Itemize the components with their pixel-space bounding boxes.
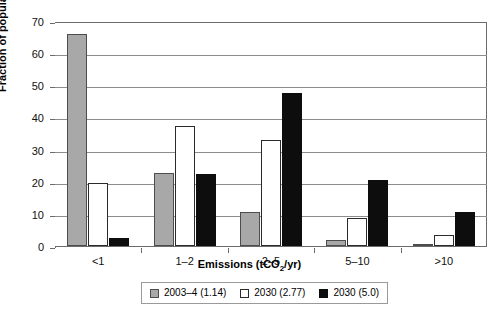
gridline [55, 119, 487, 120]
x-axis-tick [401, 248, 402, 253]
x-axis-tick [141, 248, 142, 253]
bar [240, 212, 260, 246]
legend-label: 2003–4 (1.14) [164, 288, 226, 298]
legend-item[interactable]: 2030 (5.0) [319, 288, 379, 298]
bar [175, 126, 195, 246]
bar [88, 183, 108, 246]
legend-item[interactable]: 2003–4 (1.14) [150, 288, 226, 298]
bar [455, 212, 475, 246]
bar [196, 174, 216, 246]
bar [434, 235, 454, 246]
y-axis-title: Fraction of population (%) [0, 0, 8, 92]
plot-area [55, 22, 487, 247]
bar [261, 140, 281, 246]
legend-item[interactable]: 2030 (2.77) [240, 288, 305, 298]
bar [67, 34, 87, 246]
x-axis-tick [314, 248, 315, 253]
y-axis-tick-label: 40 [0, 113, 52, 124]
bar [368, 180, 388, 246]
y-axis-tick-label: 20 [0, 178, 52, 189]
bar [154, 173, 174, 246]
legend-swatch [319, 289, 328, 298]
y-axis-tick-label: 50 [0, 81, 52, 92]
x-axis-tick [228, 248, 229, 253]
y-axis-tick-label: 0 [0, 242, 52, 253]
y-axis-tick-label: 10 [0, 210, 52, 221]
bar [413, 244, 433, 246]
gridline [55, 55, 487, 56]
legend-label: 2030 (5.0) [333, 288, 379, 298]
legend-swatch [240, 289, 249, 298]
bar [109, 238, 129, 246]
x-axis-title: Emissions (tCO2/yr) [0, 258, 499, 273]
y-axis-tick-label: 30 [0, 146, 52, 157]
x-axis-title-post: /yr) [284, 258, 301, 270]
y-axis-tick-label: 60 [0, 49, 52, 60]
gridline [55, 87, 487, 88]
bar [326, 240, 346, 246]
legend-swatch [150, 289, 159, 298]
legend-label: 2030 (2.77) [254, 288, 305, 298]
bar [347, 218, 367, 246]
y-axis-tick-label: 70 [0, 17, 52, 28]
chart-figure: Fraction of population (%) 0102030405060… [0, 0, 499, 315]
chart-legend: 2003–4 (1.14)2030 (2.77)2030 (5.0) [141, 282, 388, 304]
x-axis-title-pre: Emissions (tCO [198, 258, 280, 270]
bar [282, 93, 302, 246]
